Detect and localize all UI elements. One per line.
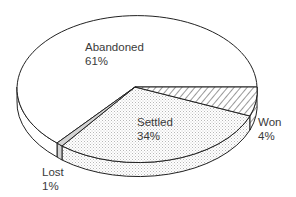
label-settled-pct: 34% xyxy=(137,130,160,142)
label-lost-name: Lost xyxy=(42,166,65,178)
label-abandoned-pct: 61% xyxy=(85,55,108,67)
pie-chart: Abandoned 61% Settled 34% Won 4% Lost 1% xyxy=(0,0,296,197)
label-won-pct: 4% xyxy=(258,130,275,142)
label-lost-pct: 1% xyxy=(42,180,59,192)
label-abandoned-name: Abandoned xyxy=(85,41,144,53)
label-won-name: Won xyxy=(258,116,281,128)
label-settled-name: Settled xyxy=(137,116,173,128)
